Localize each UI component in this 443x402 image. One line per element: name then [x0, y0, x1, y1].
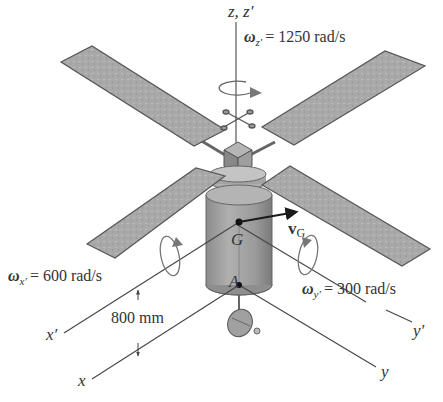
y-label: y — [379, 362, 389, 381]
y-prime-axis-end — [386, 310, 412, 322]
solar-panel-lower-right — [262, 166, 430, 266]
point-a-label: A — [228, 273, 239, 290]
solar-panel-upper-left — [61, 46, 225, 155]
dish-antenna — [223, 295, 260, 341]
x-label: x — [77, 371, 86, 390]
x-prime-label: x′ — [45, 325, 58, 344]
rotation-indicator-z — [219, 81, 262, 98]
omega-z-label: ωz′= 1250 rad/s — [244, 28, 345, 48]
dimension-label: 800 mm — [111, 309, 164, 326]
y-axis — [239, 285, 376, 367]
y-prime-label: y′ — [411, 321, 425, 340]
z-axis-label: z, z′ — [227, 2, 254, 21]
velocity-label: vG — [288, 219, 306, 240]
x-axis — [92, 285, 239, 379]
omega-x-label: ωx′= 600 rad/s — [8, 267, 102, 287]
top-antenna — [221, 110, 255, 130]
omega-y-label: ωy′= 300 rad/s — [302, 280, 396, 300]
satellite-diagram: z, z′ ωz′= 1250 rad/s G A vG ωx′= 600 ra… — [0, 0, 443, 402]
solar-panel-upper-right — [250, 51, 425, 155]
point-g-label: G — [231, 230, 243, 249]
